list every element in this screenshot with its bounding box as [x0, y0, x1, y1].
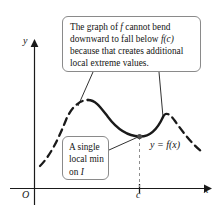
callout-bottom-line-1: A single — [69, 141, 108, 153]
callout-top: The graph of f cannot bend downward to f… — [62, 16, 201, 72]
x-axis — [10, 185, 212, 193]
x-axis-label: x — [204, 184, 208, 195]
curve-equation-label: y = f(x) — [150, 139, 180, 150]
callout-bottom: A single local min on I — [62, 136, 109, 180]
callout-top-line-3: because that creates additional — [70, 45, 194, 57]
callout-top-line-2: downward to fall below f(c) — [70, 33, 194, 45]
curve-solid-segment — [88, 100, 163, 137]
leader-line-top-right — [159, 72, 163, 117]
y-axis — [31, 39, 39, 205]
y-axis-arrow — [31, 39, 39, 47]
callout-bottom-line-2: local min — [69, 153, 108, 165]
y-axis-label: y — [23, 35, 27, 46]
local-min-point-marker — [137, 134, 142, 139]
origin-label: O — [22, 189, 29, 200]
callout-top-line-4: local extreme values. — [70, 57, 194, 69]
calculus-graph-figure: The graph of f cannot bend downward to f… — [0, 0, 219, 213]
leader-line-bottom — [109, 137, 138, 150]
c-tick-label: c — [136, 189, 140, 200]
callout-top-line-1: The graph of f cannot bend — [70, 21, 194, 33]
callout-bottom-line-3: on I — [69, 166, 108, 178]
